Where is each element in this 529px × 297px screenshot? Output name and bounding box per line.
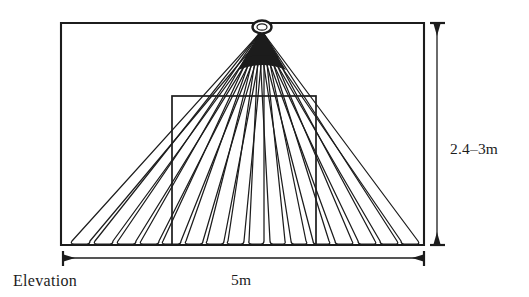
height-dimension-label: 2.4–3m (450, 140, 498, 157)
width-dimension-label: 5m (231, 271, 251, 288)
view-label: Elevation (13, 272, 77, 289)
ceiling-sensor-icon (253, 21, 272, 34)
diagram-root: 2.4–3m 5m Elevation (0, 0, 529, 297)
elevation-diagram-svg: 2.4–3m 5m Elevation (0, 0, 529, 297)
